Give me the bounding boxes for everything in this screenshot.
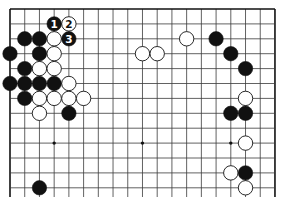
star-point xyxy=(52,141,55,144)
star-point xyxy=(229,141,232,144)
white-stone xyxy=(238,91,252,105)
move-number: 3 xyxy=(65,33,72,45)
black-stone xyxy=(238,106,252,120)
black-stone xyxy=(18,91,32,105)
black-stone xyxy=(18,61,32,75)
white-stone: 2 xyxy=(62,17,76,31)
black-stone xyxy=(32,76,46,90)
white-stone xyxy=(62,76,76,90)
move-number: 1 xyxy=(51,18,58,30)
black-stone xyxy=(32,47,46,61)
black-stone xyxy=(224,106,238,120)
black-stone xyxy=(18,76,32,90)
black-stone xyxy=(224,47,238,61)
white-stone xyxy=(32,61,46,75)
white-stone xyxy=(47,32,61,46)
white-stone xyxy=(238,136,252,150)
white-stone xyxy=(47,47,61,61)
white-stone xyxy=(150,47,164,61)
white-stone xyxy=(238,181,252,195)
white-stone xyxy=(62,91,76,105)
move-number: 2 xyxy=(65,18,72,30)
black-stone xyxy=(209,32,223,46)
black-stone xyxy=(18,32,32,46)
white-stone xyxy=(32,91,46,105)
star-point xyxy=(141,141,144,144)
black-stone: 1 xyxy=(47,17,61,31)
black-stone xyxy=(238,61,252,75)
black-stone xyxy=(238,166,252,180)
white-stone xyxy=(179,32,193,46)
white-stone xyxy=(76,91,90,105)
white-stone xyxy=(224,166,238,180)
black-stone xyxy=(3,47,17,61)
black-stone xyxy=(62,106,76,120)
white-stone xyxy=(32,106,46,120)
black-stone xyxy=(47,76,61,90)
black-stone: 3 xyxy=(62,32,76,46)
go-board: 213 xyxy=(0,0,283,205)
black-stone xyxy=(32,181,46,195)
white-stone xyxy=(47,91,61,105)
black-stone xyxy=(3,76,17,90)
white-stone xyxy=(47,61,61,75)
white-stone xyxy=(135,47,149,61)
black-stone xyxy=(32,32,46,46)
